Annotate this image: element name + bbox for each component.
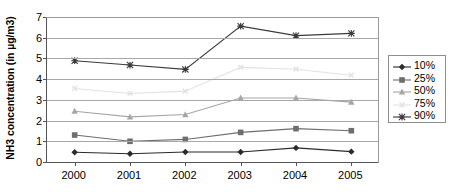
data-point-triangle xyxy=(71,108,77,114)
data-point-star xyxy=(127,62,134,69)
x-axis-tick-labels: 200020012002200320042005 xyxy=(46,167,379,189)
data-point-square xyxy=(399,77,405,83)
legend-label: 50% xyxy=(412,84,435,96)
y-axis-tick: 1 xyxy=(36,136,42,147)
x-tick-mark xyxy=(75,162,76,166)
y-axis-tick: 3 xyxy=(36,94,42,105)
plot-area xyxy=(46,17,379,163)
x-tick-mark xyxy=(241,162,242,166)
series-layer xyxy=(47,17,379,162)
x-axis-tick: 2000 xyxy=(61,169,85,181)
data-point-star xyxy=(237,23,244,30)
data-point-square xyxy=(349,128,355,134)
gridline xyxy=(47,121,379,122)
y-tick-mark xyxy=(43,141,47,142)
y-tick-mark xyxy=(43,38,47,39)
y-tick-mark xyxy=(43,121,47,122)
x-axis-tick: 2004 xyxy=(283,169,307,181)
gridline xyxy=(47,100,379,101)
legend-marker-icon xyxy=(392,109,412,121)
y-axis-tick: 6 xyxy=(36,32,42,43)
gridline xyxy=(47,58,379,59)
y-axis-tick-labels: 01234567 xyxy=(22,10,44,168)
data-point-diamond xyxy=(293,145,299,151)
series-10pct xyxy=(71,145,354,157)
data-point-square xyxy=(293,126,299,132)
legend-item-25pct[interactable]: 25% xyxy=(392,72,443,84)
data-point-diamond xyxy=(399,64,405,70)
data-point-diamond xyxy=(182,149,188,155)
y-axis-tick: 7 xyxy=(36,12,42,23)
data-point-diamond xyxy=(71,149,77,155)
series-75pct xyxy=(72,65,353,96)
x-tick-mark xyxy=(185,162,186,166)
x-tick-mark xyxy=(296,162,297,166)
y-axis-tick: 5 xyxy=(36,53,42,64)
legend-marker-icon xyxy=(392,97,412,109)
legend-label: 10% xyxy=(412,59,435,71)
x-axis-tick: 2005 xyxy=(338,169,362,181)
y-axis-tick: 4 xyxy=(36,74,42,85)
legend-item-90pct[interactable]: 90% xyxy=(392,109,443,121)
legend-label: 90% xyxy=(412,109,435,121)
series-line xyxy=(75,129,352,142)
data-point-star xyxy=(399,114,406,121)
series-50pct xyxy=(71,95,354,120)
gridline xyxy=(47,79,379,80)
y-tick-mark xyxy=(43,58,47,59)
series-line xyxy=(75,148,352,154)
legend-item-50pct[interactable]: 50% xyxy=(392,84,443,96)
data-point-square xyxy=(238,130,244,136)
y-axis-tick: 0 xyxy=(36,157,42,168)
legend-item-75pct[interactable]: 75% xyxy=(392,97,443,109)
y-axis-tick: 2 xyxy=(36,115,42,126)
legend-marker-icon xyxy=(392,84,412,96)
series-line xyxy=(75,67,352,93)
data-point-star xyxy=(348,30,355,37)
data-point-diamond xyxy=(237,149,243,155)
plot-frame-right xyxy=(378,17,379,163)
x-tick-mark xyxy=(351,162,352,166)
series-90pct xyxy=(71,23,354,73)
series-line xyxy=(75,26,352,69)
data-point-square xyxy=(72,132,78,138)
data-point-star xyxy=(182,66,189,73)
data-point-diamond xyxy=(127,151,133,157)
legend-label: 25% xyxy=(412,72,435,84)
legend-marker-icon xyxy=(392,59,412,71)
x-tick-mark xyxy=(130,162,131,166)
gridline xyxy=(47,38,379,39)
plot-frame-top xyxy=(46,17,379,18)
y-axis-label-text: NH3 concentration (in µg/m3) xyxy=(4,16,16,159)
y-tick-mark xyxy=(43,79,47,80)
chart-legend: 10%25%50%75%90% xyxy=(388,55,446,123)
y-axis-label: NH3 concentration (in µg/m3) xyxy=(0,0,20,175)
legend-item-10pct[interactable]: 10% xyxy=(392,59,443,71)
legend-label: 75% xyxy=(412,97,435,109)
x-axis-tick: 2003 xyxy=(227,169,251,181)
gridline xyxy=(47,141,379,142)
y-tick-mark xyxy=(43,100,47,101)
x-axis-tick: 2001 xyxy=(117,169,141,181)
legend-marker-icon xyxy=(392,72,412,84)
chart-figure: NH3 concentration (in µg/m3) 01234567 20… xyxy=(0,0,453,192)
data-point-diamond xyxy=(348,148,354,154)
x-axis-tick: 2002 xyxy=(172,169,196,181)
y-tick-mark xyxy=(43,162,47,163)
